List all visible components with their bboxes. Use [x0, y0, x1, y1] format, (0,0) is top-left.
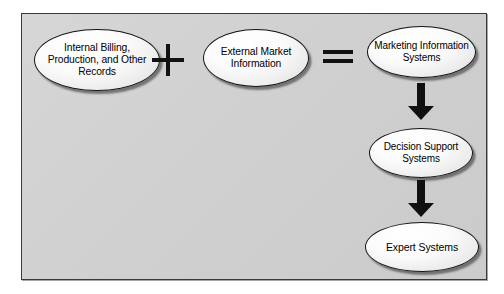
- diagram-frame: Internal Billing, Production, and Other …: [21, 13, 487, 280]
- node-expert-systems: Expert Systems: [365, 222, 479, 272]
- equals-top-bar: [323, 50, 353, 54]
- arrow-stem: [417, 180, 425, 204]
- node-decision-support-systems: Decision Support Systems: [369, 128, 473, 178]
- equals-bottom-bar: [323, 59, 353, 63]
- node-expert-systems-label: Expert Systems: [380, 241, 464, 253]
- node-external-market-label: External Market Information: [204, 46, 308, 70]
- node-marketing-information-systems: Marketing Information Systems: [367, 26, 476, 78]
- node-internal-records-label: Internal Billing, Production, and Other …: [35, 42, 159, 78]
- node-external-market: External Market Information: [203, 29, 309, 87]
- equals-operator-icon: [323, 48, 353, 64]
- arrow-head: [408, 203, 434, 217]
- plus-operator-icon: [152, 44, 184, 76]
- node-decision-support-systems-label: Decision Support Systems: [370, 141, 472, 165]
- arrow-down-icon-mis-to-dss: [408, 83, 434, 121]
- node-internal-records: Internal Billing, Production, and Other …: [34, 29, 160, 91]
- arrow-stem: [417, 83, 425, 107]
- node-marketing-information-systems-label: Marketing Information Systems: [368, 40, 475, 64]
- arrow-down-icon-dss-to-es: [408, 180, 434, 218]
- plus-vertical-bar: [166, 44, 170, 76]
- arrow-head: [408, 106, 434, 120]
